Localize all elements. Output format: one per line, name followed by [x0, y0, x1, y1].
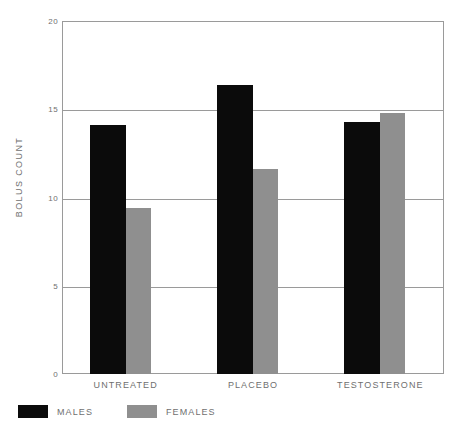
- y-tick-label: 5: [32, 281, 58, 290]
- bars-layer: [62, 21, 444, 374]
- bolus-count-bar-chart: BOLUS COUNT 0 5 10 15 20 UNTREATED PLACE…: [0, 0, 458, 430]
- legend-label-females: FEMALES: [166, 407, 216, 417]
- y-tick-label: 0: [32, 370, 58, 379]
- bar-males-placebo: [217, 85, 253, 374]
- y-axis-title: BOLUS COUNT: [14, 102, 24, 252]
- x-tick-label-untreated: UNTREATED: [94, 380, 158, 390]
- legend: MALES FEMALES: [18, 405, 216, 418]
- y-tick-label: 15: [32, 105, 58, 114]
- legend-item-females: FEMALES: [127, 405, 216, 418]
- y-tick-label: 10: [32, 193, 58, 202]
- y-tick-label: 20: [32, 17, 58, 26]
- legend-swatch-males-icon: [18, 405, 48, 418]
- bar-females-placebo: [253, 169, 278, 374]
- bar-females-testosterone: [380, 113, 405, 374]
- y-axis-tick-labels: 0 5 10 15 20: [24, 0, 58, 430]
- bar-males-testosterone: [344, 122, 380, 374]
- legend-label-males: MALES: [57, 407, 93, 417]
- x-tick-label-testosterone: TESTOSTERONE: [337, 380, 424, 390]
- legend-swatch-females-icon: [127, 405, 157, 418]
- x-tick-label-placebo: PLACEBO: [228, 380, 278, 390]
- bar-females-untreated: [126, 208, 151, 374]
- bar-males-untreated: [90, 125, 126, 374]
- legend-item-males: MALES: [18, 405, 93, 418]
